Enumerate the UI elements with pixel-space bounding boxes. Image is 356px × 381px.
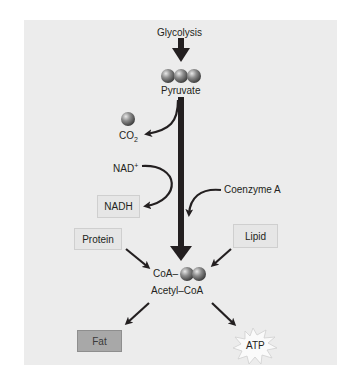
atp-arrow	[212, 303, 234, 324]
coenzyme-a-arrow	[189, 190, 221, 214]
protein-label: Protein	[82, 234, 114, 245]
lipid-box: Lipid	[233, 224, 278, 248]
co2-release-arrow	[147, 100, 178, 134]
coa-prefix-label: CoA–	[153, 268, 178, 280]
nadh-label: NADH	[104, 201, 132, 212]
atp-label: ATP	[246, 340, 265, 352]
acetyl-coa-label: Acetyl–CoA	[151, 285, 203, 297]
fat-box: Fat	[77, 330, 122, 352]
fat-arrow	[127, 303, 149, 323]
protein-box: Protein	[74, 228, 122, 250]
nadh-box: NADH	[97, 195, 140, 218]
pyruvate-label: Pyruvate	[161, 85, 200, 97]
co2-label: CO2	[119, 130, 138, 146]
nad-label-main: NAD	[113, 163, 134, 174]
pyruvate-molecule-icon	[161, 69, 201, 83]
co2-label-main: CO	[119, 130, 134, 141]
nad-plus-label: NAD+	[113, 160, 138, 175]
pathway-arrows	[0, 0, 356, 381]
co2-label-subscript: 2	[134, 136, 138, 143]
co2-molecule-icon	[121, 112, 135, 126]
fat-label: Fat	[92, 336, 106, 347]
nad-label-superscript: +	[134, 162, 138, 169]
nad-to-nadh-arrow	[142, 166, 172, 206]
protein-arrow	[126, 249, 148, 267]
lipid-arrow	[213, 249, 231, 265]
acetyl-coa-molecule-icon	[180, 267, 206, 281]
lipid-label: Lipid	[245, 231, 266, 242]
coenzyme-a-label: Coenzyme A	[224, 184, 281, 196]
glycolysis-arrow	[172, 38, 190, 62]
glycolysis-label: Glycolysis	[157, 27, 202, 39]
